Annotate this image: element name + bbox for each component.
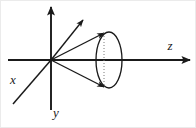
x-axis-label: x [9, 72, 16, 87]
y-axis-label: y [51, 105, 59, 120]
axes-cone-diagram: x y z [0, 0, 196, 128]
figure-container: x y z [0, 0, 196, 128]
z-axis-label: z [166, 38, 172, 53]
figure-border [1, 1, 196, 128]
